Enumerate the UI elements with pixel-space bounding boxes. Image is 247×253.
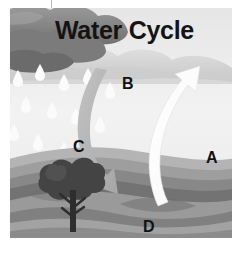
diagram-label-d: D <box>143 219 155 235</box>
layered-rolling-hills <box>10 147 232 238</box>
page-title: Water Cycle <box>55 18 194 43</box>
diagram-label-a: A <box>206 150 218 166</box>
water-cycle-diagram-image: Water Cycle A B C D <box>0 0 247 253</box>
diagram-label-c: C <box>73 139 85 155</box>
diagram-label-b: B <box>122 76 134 92</box>
